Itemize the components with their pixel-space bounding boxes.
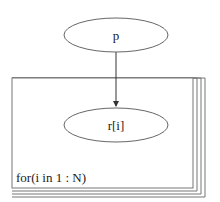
node-r[interactable]: r[i] bbox=[64, 108, 168, 142]
node-p[interactable]: p bbox=[64, 18, 168, 52]
node-r-label: r[i] bbox=[108, 118, 125, 133]
plate-label: for(i in 1 : N) bbox=[16, 170, 86, 185]
node-p-label: p bbox=[113, 28, 120, 43]
plate-diagram: p r[i] for(i in 1 : N) bbox=[0, 0, 220, 202]
